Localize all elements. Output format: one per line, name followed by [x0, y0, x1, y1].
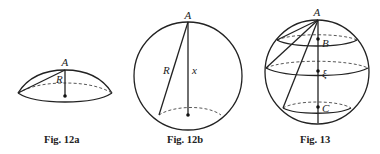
chord-to-lower	[283, 20, 318, 108]
cut-center-dot	[186, 113, 190, 117]
point-b-dot	[316, 37, 320, 41]
base-center-dot	[63, 94, 67, 98]
label-xi: ξ	[322, 67, 327, 80]
caption-fig-12b: Fig. 12b	[167, 134, 203, 145]
label-b: B	[322, 37, 329, 49]
figure-canvas: A R Fig. 12a A R x Fig. 12b	[0, 0, 380, 154]
label-x: x	[191, 64, 197, 76]
point-xi-dot	[316, 69, 320, 73]
upper-section-front	[277, 40, 357, 46]
label-a: A	[313, 6, 321, 18]
label-r: R	[162, 64, 170, 76]
fig-13: A B ξ C Fig. 13	[265, 6, 369, 145]
cut-back-arc	[159, 107, 221, 115]
fig-12a: A R Fig. 12a	[18, 56, 112, 145]
equator-back	[266, 61, 368, 68]
label-r: R	[55, 73, 63, 85]
label-a: A	[61, 56, 69, 68]
label-a: A	[184, 9, 192, 21]
caption-fig-13: Fig. 13	[300, 134, 330, 145]
lower-section-front	[283, 108, 351, 113]
caption-fig-12a: Fig. 12a	[44, 134, 80, 145]
point-c-dot	[316, 105, 320, 109]
fig-12b: A R x Fig. 12b	[134, 9, 242, 145]
label-c: C	[322, 102, 330, 114]
